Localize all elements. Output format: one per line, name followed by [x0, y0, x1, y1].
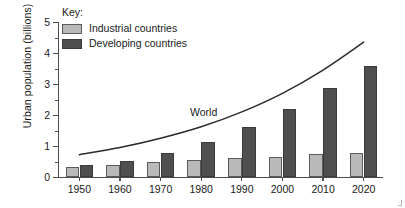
x-tick-2000	[282, 177, 283, 181]
y-tick-0	[53, 177, 58, 178]
y-tick-label-0: 0	[44, 170, 50, 184]
chart-figure: Urban population (billions) 012345 19501…	[0, 0, 405, 208]
legend-label-industrial: Industrial countries	[89, 22, 177, 35]
y-tick-label-1: 1	[44, 139, 50, 153]
x-tick-label-2020: 2020	[339, 183, 389, 195]
legend-swatch-developing	[62, 39, 82, 49]
x-tick-1960	[119, 177, 120, 181]
y-tick-label-2: 2	[44, 108, 50, 122]
chart-legend: Key: Industrial countries Developing cou…	[62, 6, 187, 52]
y-tick-label-5: 5	[44, 15, 50, 29]
x-tick-1990	[241, 177, 242, 181]
world-annotation-label: World	[190, 106, 217, 118]
legend-item-developing: Developing countries	[62, 37, 187, 50]
legend-item-industrial: Industrial countries	[62, 22, 187, 35]
legend-swatch-industrial	[62, 24, 82, 34]
x-tick-1950	[79, 177, 80, 181]
x-tick-2020	[363, 177, 364, 181]
x-axis-line	[58, 177, 383, 178]
x-tick-1980	[201, 177, 202, 181]
x-tick-2010	[322, 177, 323, 181]
x-tick-1970	[160, 177, 161, 181]
legend-title: Key:	[62, 6, 187, 19]
y-axis-title: Urban population (billions)	[21, 0, 33, 141]
y-tick-label-3: 3	[44, 77, 50, 91]
world-curve-path	[79, 42, 363, 155]
y-tick-label-4: 4	[44, 46, 50, 60]
corner-mark	[398, 200, 402, 206]
legend-label-developing: Developing countries	[89, 37, 187, 50]
